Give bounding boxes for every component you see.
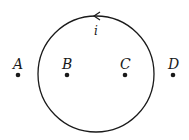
point-dot [123, 73, 128, 78]
point-dot [16, 73, 21, 78]
current-label: i [94, 24, 98, 38]
point-dot [171, 73, 176, 78]
point-label: B [61, 56, 72, 72]
point-dot [65, 73, 70, 78]
point-c: C [120, 56, 131, 77]
point-label: D [167, 56, 179, 72]
point-b: B [61, 56, 72, 77]
point-label: C [120, 56, 131, 72]
point-label: A [11, 56, 23, 72]
loop-diagram: i A B C D [0, 0, 189, 140]
point-d: D [167, 56, 179, 77]
point-a: A [11, 56, 23, 77]
